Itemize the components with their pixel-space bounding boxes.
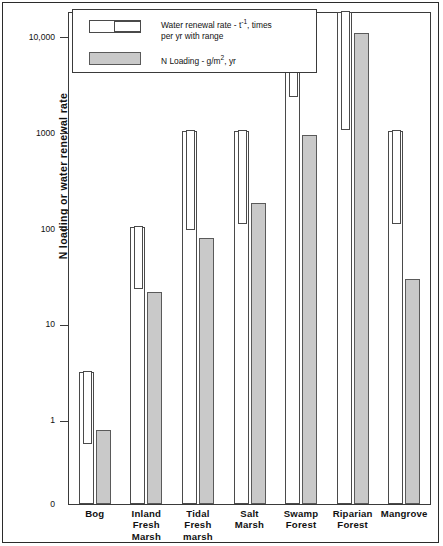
water-renewal-bar	[388, 131, 403, 504]
water-renewal-range-marker	[238, 130, 247, 224]
water-renewal-range-marker	[392, 130, 401, 224]
x-axis-labels: BogInlandFreshMarshTidalFreshmarshSaltMa…	[69, 508, 431, 546]
legend-label-n-loading: N Loading - g/m2, yr	[161, 48, 236, 67]
legend-item-n-loading: N Loading - g/m2, yr	[73, 46, 316, 72]
water-renewal-bar	[285, 30, 300, 504]
chart-figure: N loading or water renewal rate 10,00010…	[0, 0, 443, 546]
water-renewal-bar	[130, 227, 145, 504]
bar-group	[234, 13, 266, 504]
bar-group	[79, 13, 111, 504]
water-renewal-bar	[234, 131, 249, 504]
water-renewal-range-marker	[341, 11, 350, 130]
y-axis-ticks: 10,00010001001010	[0, 0, 69, 546]
y-tick-label-100: 100	[41, 224, 55, 234]
bar-group	[337, 13, 369, 504]
bar-group	[285, 13, 317, 504]
water-renewal-range-marker	[83, 371, 92, 444]
bar-group	[130, 13, 162, 504]
y-tick-label-10: 10	[45, 319, 55, 329]
y-tick-label-10000: 10,000	[29, 32, 55, 42]
water-renewal-bar	[337, 12, 352, 504]
legend-range-marker-icon	[114, 21, 141, 32]
x-axis-label-6: Mangrove	[370, 508, 438, 519]
legend-swatch-gray-bar	[89, 52, 141, 65]
water-renewal-range-marker	[134, 226, 143, 289]
n-loading-bar	[354, 33, 369, 504]
bar-group	[182, 13, 214, 504]
chart-legend: Water renewal rate - t-1, timesper yr wi…	[72, 9, 317, 73]
water-renewal-bar	[79, 372, 94, 504]
water-renewal-bar	[182, 131, 197, 504]
bar-groups	[69, 13, 430, 504]
legend-item-water-renewal: Water renewal rate - t-1, timesper yr wi…	[73, 14, 316, 40]
n-loading-bar	[405, 279, 420, 504]
n-loading-bar	[199, 238, 214, 504]
n-loading-bar	[147, 292, 162, 504]
n-loading-bar	[302, 135, 317, 504]
n-loading-bar	[251, 203, 266, 504]
y-tick-label-0: 0	[50, 499, 55, 509]
y-tick-label-1000: 1000	[36, 128, 55, 138]
y-tick-label-1: 1	[50, 415, 55, 425]
bar-group	[388, 13, 420, 504]
legend-label-water-renewal: Water renewal rate - t-1, timesper yr wi…	[161, 16, 272, 42]
n-loading-bar	[96, 430, 111, 504]
water-renewal-range-marker	[186, 130, 195, 230]
